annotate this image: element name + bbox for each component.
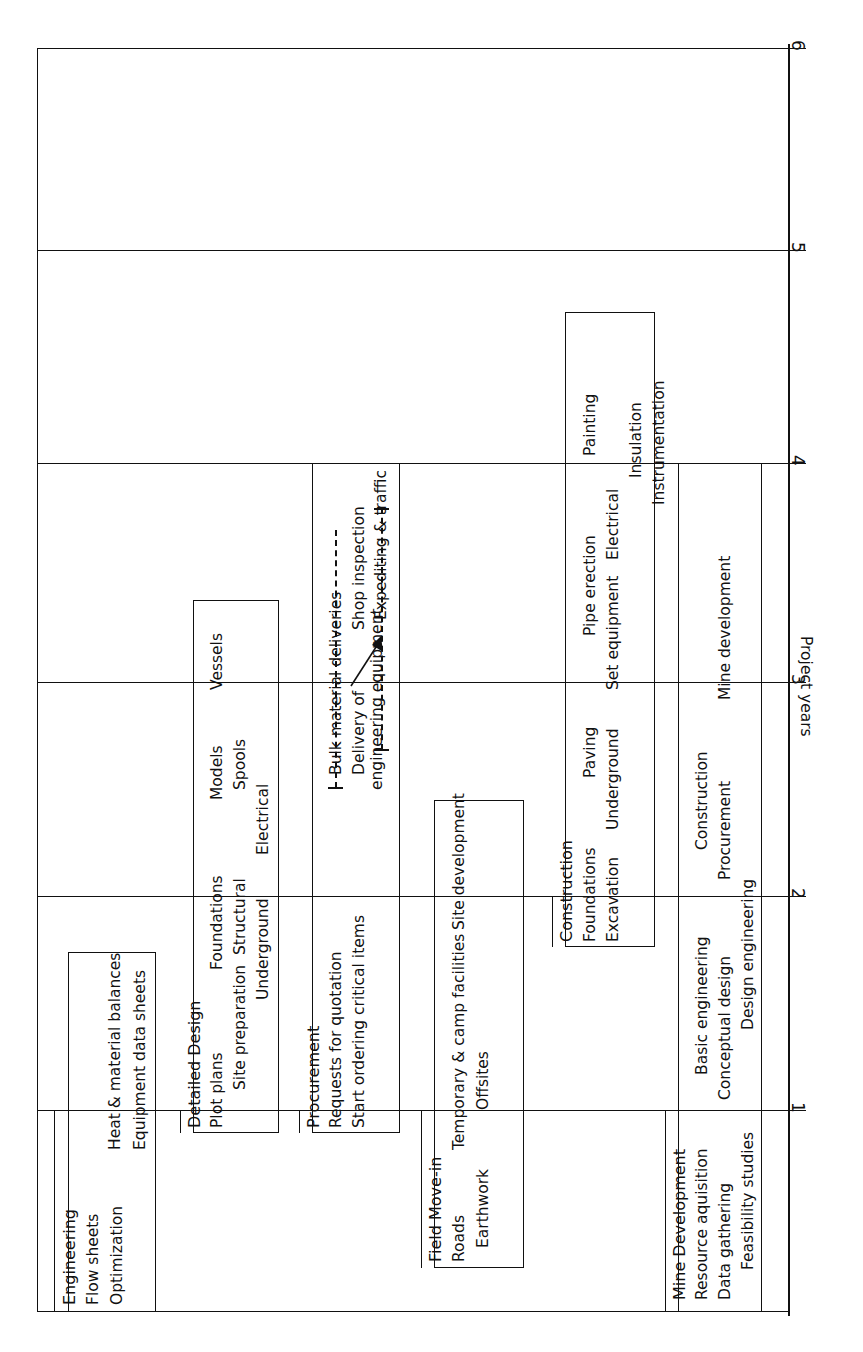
construction-item-2: Pipe erection	[583, 535, 599, 636]
engineering-item-0: Flow sheets	[86, 1214, 102, 1305]
construction-item-7: Electrical	[606, 489, 622, 560]
procurement-item-1: Start ordering critical items	[352, 915, 368, 1128]
tick-label-2: 2	[789, 888, 806, 914]
mine-development-item-5: Procurement	[718, 781, 734, 880]
mine-development-item-8: Design engineering	[741, 879, 757, 1030]
field-move-in-item-0: Roads	[452, 1215, 468, 1262]
construction-stem-v	[552, 896, 553, 947]
engineering-stem-v	[54, 1110, 55, 1312]
detailed-design-item-0: Plot plans	[210, 1052, 226, 1128]
mine-development-item-1: Basic engineering	[695, 936, 711, 1075]
procurement-item-5: Shop inspection	[352, 506, 368, 630]
procurement-dash-rail-left	[335, 530, 337, 788]
field-move-in-stem	[421, 1110, 447, 1111]
gridline-year-4	[37, 463, 789, 464]
construction-item-6: Set equipment	[606, 576, 622, 690]
construction-item-9: Instrumentation	[652, 381, 668, 505]
construction-item-4: Excavation	[606, 857, 622, 942]
mine-development-item-2: Construction	[695, 751, 711, 850]
tick-label-4: 4	[789, 455, 806, 481]
field-move-in-stem-v	[421, 1110, 422, 1268]
detailed-design-stem-v	[180, 1110, 181, 1133]
procurement-dash-cap-left	[328, 787, 343, 789]
gridline-year-2	[37, 896, 789, 897]
gridline-year-5	[37, 250, 789, 251]
mine-development-stem	[665, 1110, 691, 1111]
detailed-design-item-6: Spools	[233, 739, 249, 790]
construction-header: Construction	[559, 840, 575, 942]
detailed-design-item-2: Models	[210, 745, 226, 800]
procurement-stem-v	[299, 1110, 300, 1133]
procurement-dash-cap-right-top	[374, 508, 389, 510]
tick-label-1: 1	[789, 1102, 806, 1128]
gridline-year-3	[37, 682, 789, 683]
field-move-in-item-4: Offsites	[476, 1051, 492, 1110]
detailed-design-header: Detailed Design	[187, 1001, 203, 1128]
mine-development-item-0: Resource aquisition	[695, 1148, 711, 1300]
procurement-item-0: Requests for quotation	[329, 951, 345, 1128]
procurement-leader-arrow	[345, 630, 395, 690]
tick-label-6: 6	[789, 40, 806, 66]
engineering-item-2: Optimization	[110, 1206, 126, 1305]
construction-item-0: Foundations	[583, 847, 599, 942]
field-move-in-item-3: Earthwork	[476, 1169, 492, 1248]
detailed-design-item-7: Underground	[256, 899, 272, 1000]
detailed-design-item-8: Electrical	[256, 784, 272, 855]
detailed-design-item-3: Vessels	[210, 633, 226, 690]
mine-development-item-3: Data gathering	[718, 1183, 734, 1300]
axis-title: Project years	[797, 636, 815, 737]
engineering-stem	[54, 1110, 82, 1111]
field-move-in-item-1: Temporary & camp facilities	[452, 934, 468, 1150]
field-move-in-item-2: Site development	[452, 793, 468, 930]
construction-item-5: Underground	[606, 729, 622, 830]
construction-item-1: Paving	[583, 727, 599, 778]
procurement-header: Procurement	[306, 1026, 322, 1128]
engineering-item-3: Equipment data sheets	[133, 970, 149, 1150]
detailed-design-item-1: Foundations	[210, 875, 226, 970]
construction-item-3: Painting	[583, 394, 599, 456]
engineering-item-1: Heat & material balances	[108, 953, 124, 1150]
engineering-header: Engineering	[62, 1209, 78, 1305]
procurement-dash-rail-right	[381, 508, 383, 750]
gridline-year-6	[37, 48, 789, 49]
detailed-design-item-4: Site preparation	[233, 965, 249, 1090]
procurement-dash-cap-right-bottom	[374, 749, 389, 751]
field-move-in-header: Field Move-in	[428, 1157, 444, 1262]
tick-label-5: 5	[789, 242, 806, 268]
mine-development-item-4: Conceptual design	[718, 956, 734, 1100]
mine-development-stem-v	[665, 1110, 666, 1312]
detailed-design-item-5: Structural	[233, 878, 249, 955]
procurement-item-3: Delivery of	[352, 691, 368, 775]
gantt-chart: 6 5 4 3 2 1 Project years Engineering Fl…	[0, 0, 863, 1352]
mine-development-header: Mine Development	[672, 1149, 688, 1300]
construction-item-8: Insulation	[629, 402, 645, 478]
mine-development-item-7: Feasibility studies	[741, 1132, 757, 1270]
mine-development-item-6: Mine development	[718, 556, 734, 700]
